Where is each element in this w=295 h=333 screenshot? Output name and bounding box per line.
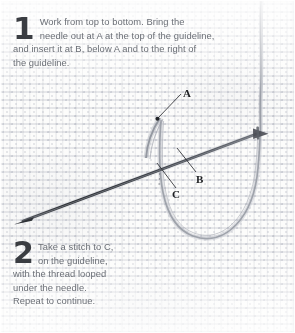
step-1-line-4: the guideline. bbox=[13, 56, 223, 70]
step-2-text: Take a stitch to C, on the guideline, wi… bbox=[13, 240, 163, 308]
step-1-instruction: 1 Work from top to bottom. Bring the nee… bbox=[13, 15, 223, 69]
step-2-line-4: under the needle. bbox=[13, 281, 163, 295]
step-2-instruction: 2 Take a stitch to C, on the guideline, … bbox=[13, 240, 163, 308]
point-label-c: C bbox=[172, 189, 180, 200]
step-1-number: 1 bbox=[13, 15, 35, 42]
step-2-line-5: Repeat to continue. bbox=[13, 294, 163, 308]
instruction-diagram-page: 1 Work from top to bottom. Bring the nee… bbox=[0, 0, 295, 333]
step-1-text: Work from top to bottom. Bring the needl… bbox=[13, 15, 223, 69]
point-label-a: A bbox=[183, 88, 191, 99]
step-2-number: 2 bbox=[13, 240, 34, 266]
step-2-line-1: Take a stitch to C, bbox=[13, 240, 163, 254]
step-1-line-1: Work from top to bottom. Bring the bbox=[13, 15, 223, 29]
step-2-line-3: with the thread looped bbox=[13, 267, 163, 281]
step-2-line-2: on the guideline, bbox=[13, 254, 163, 268]
point-label-b: B bbox=[196, 174, 203, 185]
step-1-line-3: and insert it at B, below A and to the r… bbox=[13, 42, 223, 56]
step-1-line-2: needle out at A at the top of the guidel… bbox=[13, 29, 223, 43]
